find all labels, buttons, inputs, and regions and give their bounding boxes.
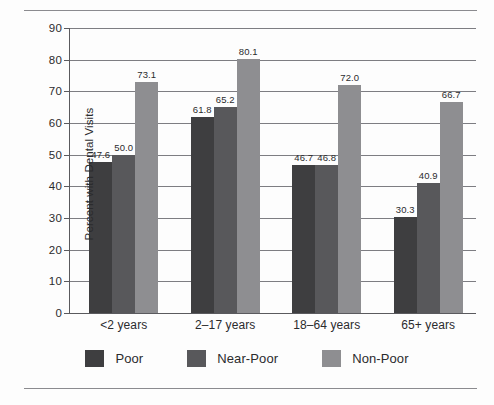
- bar: [214, 107, 237, 313]
- bar-value-label: 73.1: [131, 69, 163, 80]
- gridline: [70, 123, 476, 124]
- bar: [338, 85, 361, 313]
- y-axis-tick: [64, 186, 70, 187]
- bar: [135, 82, 158, 313]
- legend-swatch-icon: [187, 350, 206, 367]
- bar: [191, 117, 214, 313]
- plot-area: 47.650.073.161.865.280.146.746.872.030.3…: [70, 28, 476, 313]
- x-axis-category-labels: <2 years2–17 years18–64 years65+ years: [70, 318, 476, 338]
- y-axis-tick-label: 80: [32, 54, 62, 66]
- bar-value-label: 46.8: [311, 152, 343, 163]
- legend-label: Poor: [115, 351, 143, 366]
- legend-swatch-icon: [322, 350, 341, 367]
- gridline: [70, 91, 476, 92]
- y-axis-tick-label: 30: [32, 212, 62, 224]
- x-axis-category-label: <2 years: [100, 318, 147, 332]
- bar-value-label: 61.8: [186, 104, 218, 115]
- y-axis-tick: [64, 155, 70, 156]
- y-axis-tick-labels: 0102030405060708090: [28, 28, 62, 313]
- dental-visits-bar-chart: 0102030405060708090 47.650.073.161.865.2…: [0, 0, 494, 405]
- bar-value-label: 66.7: [435, 89, 467, 100]
- legend-label: Near-Poor: [217, 351, 278, 366]
- x-axis-baseline: [69, 313, 476, 314]
- bar: [417, 183, 440, 313]
- y-axis-tick-label: 10: [32, 275, 62, 287]
- y-axis-tick: [64, 250, 70, 251]
- x-axis-category-label: 18–64 years: [293, 318, 360, 332]
- bar-value-label: 72.0: [334, 72, 366, 83]
- legend-swatch-icon: [85, 350, 104, 367]
- top-divider-rule: [24, 10, 477, 11]
- legend-item[interactable]: Poor: [85, 350, 143, 367]
- bar: [440, 102, 463, 313]
- y-axis-tick-label: 40: [32, 180, 62, 192]
- bar: [292, 165, 315, 313]
- y-axis-tick: [64, 281, 70, 282]
- y-axis-tick: [64, 123, 70, 124]
- bar-value-label: 65.2: [209, 94, 241, 105]
- y-axis-tick: [64, 218, 70, 219]
- bar-value-label: 80.1: [232, 46, 264, 57]
- gridline: [70, 28, 476, 29]
- chart-legend: PoorNear-PoorNon-Poor: [0, 350, 494, 367]
- bar-value-label: 50.0: [108, 142, 140, 153]
- y-axis-tick-label: 70: [32, 85, 62, 97]
- bar: [394, 217, 417, 313]
- y-axis-tick: [64, 91, 70, 92]
- y-axis-tick: [64, 28, 70, 29]
- x-axis-category-label: 65+ years: [401, 318, 455, 332]
- bar: [315, 165, 338, 313]
- y-axis-tick-label: 50: [32, 149, 62, 161]
- y-axis-line: [69, 28, 70, 313]
- y-axis-tick: [64, 60, 70, 61]
- y-axis-tick-label: 20: [32, 244, 62, 256]
- bar-value-label: 30.3: [389, 204, 421, 215]
- legend-item[interactable]: Near-Poor: [187, 350, 278, 367]
- y-axis-tick-label: 0: [32, 307, 62, 319]
- bottom-divider-rule: [24, 388, 477, 389]
- gridline: [70, 60, 476, 61]
- y-axis-tick: [64, 313, 70, 314]
- legend-label: Non-Poor: [352, 351, 408, 366]
- legend-item[interactable]: Non-Poor: [322, 350, 408, 367]
- y-axis-title: Percent with Dental Visits: [83, 59, 95, 289]
- x-axis-category-label: 2–17 years: [195, 318, 255, 332]
- bar-value-label: 40.9: [412, 170, 444, 181]
- bar: [112, 155, 135, 313]
- y-axis-tick-label: 90: [32, 22, 62, 34]
- y-axis-tick-label: 60: [32, 117, 62, 129]
